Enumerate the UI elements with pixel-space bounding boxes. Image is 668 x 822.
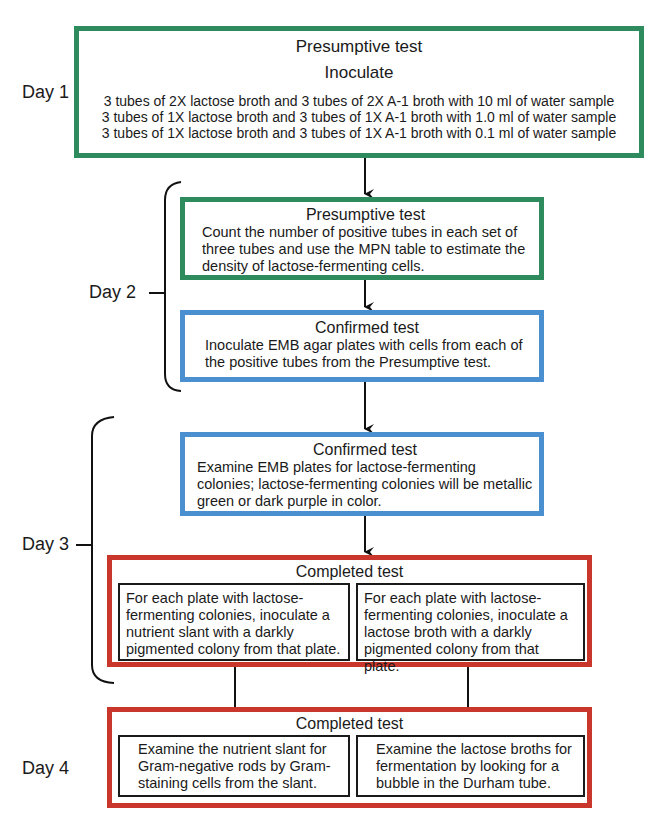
inoculate-line-2: 3 tubes of 1X lactose broth and 3 tubes … [79, 109, 639, 125]
box-text: Count the number of positive tubes in ea… [202, 224, 529, 275]
inoculate-line-3: 3 tubes of 1X lactose broth and 3 tubes … [79, 125, 639, 141]
day2-brace [165, 182, 181, 391]
presumptive-inoculate-box: Presumptive test Inoculate 3 tubes of 2X… [74, 26, 644, 158]
completed-inoculate-box: Completed test For each plate with lacto… [107, 555, 592, 667]
box-title: Confirmed test [205, 318, 529, 337]
presumptive-count-box: Presumptive test Count the number of pos… [180, 197, 544, 280]
day1-label: Day 1 [22, 82, 69, 103]
day4-label: Day 4 [22, 758, 69, 779]
nutrient-slant-inoculate-box: For each plate with lactose-fermenting c… [118, 583, 350, 661]
completed-examine-box: Completed test Examine the nutrient slan… [107, 707, 592, 808]
confirmed-inoculate-box: Confirmed test Inoculate EMB agar plates… [180, 310, 544, 382]
inoculate-line-1: 3 tubes of 2X lactose broth and 3 tubes … [79, 93, 639, 109]
confirmed-examine-box: Confirmed test Examine EMB plates for la… [180, 432, 544, 516]
gram-stain-examine-box: Examine the nutrient slant for Gram-nega… [118, 735, 350, 797]
box-subtitle: Inoculate [79, 62, 639, 84]
box-title: Presumptive test [202, 205, 529, 224]
day2-label: Day 2 [89, 282, 136, 303]
box-text: Inoculate EMB agar plates with cells fro… [205, 337, 529, 371]
box-title: Confirmed test [197, 440, 533, 459]
box-title: Completed test [112, 562, 587, 581]
box-text: Examine EMB plates for lactose-fermentin… [197, 459, 533, 510]
durham-tube-examine-box: Examine the lactose broths for fermentat… [356, 735, 585, 797]
box-title: Presumptive test [79, 36, 639, 58]
box-title: Completed test [112, 714, 587, 733]
day3-label: Day 3 [22, 534, 69, 555]
lactose-broth-inoculate-box: For each plate with lactose-fermenting c… [356, 583, 585, 661]
